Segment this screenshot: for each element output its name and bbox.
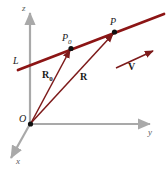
point-p0-dot bbox=[68, 46, 73, 51]
line-L bbox=[18, 14, 164, 70]
x-axis bbox=[11, 124, 30, 158]
vector-line-diagram: z y x L O P0 P R0 R V bbox=[0, 0, 166, 172]
z-axis-label: z bbox=[22, 4, 26, 13]
point-p-label: P bbox=[110, 17, 116, 27]
point-p0-label: P0 bbox=[62, 33, 72, 46]
line-L-group bbox=[18, 14, 164, 70]
point-origin-label: O bbox=[19, 114, 26, 124]
line-L-label: L bbox=[13, 56, 19, 66]
axes-group bbox=[11, 13, 150, 158]
y-axis-label: y bbox=[148, 128, 152, 137]
diagram-canvas bbox=[0, 0, 166, 172]
vector-R0-subscript: 0 bbox=[49, 75, 53, 83]
point-origin-dot bbox=[28, 121, 33, 126]
vector-V-label: V bbox=[128, 62, 135, 72]
point-p0-subscript: 0 bbox=[68, 38, 72, 46]
point-p-dot bbox=[112, 29, 117, 34]
x-axis-label: x bbox=[16, 157, 20, 166]
vector-R0-label: R0 bbox=[42, 70, 53, 83]
vector-R-label: R bbox=[80, 72, 87, 82]
